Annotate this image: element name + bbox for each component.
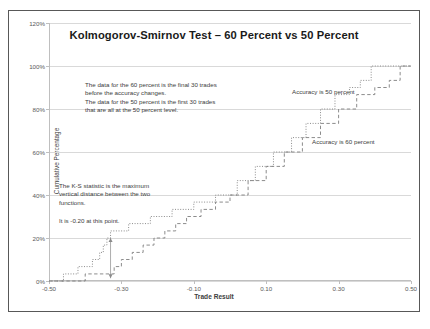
ks-note-line-1: The K-S statistic is the maximum: [59, 182, 150, 190]
x-tick-label: -0.30: [114, 285, 128, 292]
annotation-accuracy-50-label: Accuracy is 50 percent: [292, 88, 355, 96]
data-note-line-2: before the accuracy changes.: [85, 89, 217, 97]
y-tick-label: 0%: [36, 278, 45, 285]
x-tick-label: 0.30: [333, 285, 345, 292]
x-tick-mark: [121, 281, 122, 284]
x-tick-label: 0.50: [405, 285, 417, 292]
y-tick-label: 80%: [33, 106, 45, 113]
data-note-line-4: that are all at the 50 percent level.: [85, 106, 217, 114]
data-curves: [49, 23, 411, 281]
annotation-ks-definition: The K-S statistic is the maximum vertica…: [59, 182, 150, 207]
chart-window-frame: Kolmogorov-Smirnov Test – 60 Percent vs …: [8, 10, 420, 312]
y-tick-label: 20%: [33, 235, 45, 242]
x-axis-title: Trade Result: [9, 293, 419, 300]
plot-area: 0%20%40%60%80%100%120% -0.50-0.30-0.100.…: [49, 23, 411, 281]
x-tick-mark: [339, 281, 340, 284]
ks-note-line-2: vertical distance between the two: [59, 190, 150, 198]
ks-note-line-3: functions.: [59, 199, 150, 207]
x-tick-mark: [411, 281, 412, 284]
data-note-line-3: The data for the 50 percent is the first…: [85, 98, 217, 106]
annotation-accuracy-60-label: Accuracy is 60 percent: [312, 138, 375, 146]
x-tick-label: -0.50: [42, 285, 56, 292]
y-tick-label: 40%: [33, 192, 45, 199]
annotation-ks-value: It is -0.20 at this point.: [59, 217, 120, 225]
x-tick-mark: [266, 281, 267, 284]
data-note-line-1: The data for the 60 percent is the final…: [85, 81, 217, 89]
gridline-y: [49, 281, 411, 282]
x-tick-mark: [194, 281, 195, 284]
y-tick-label: 100%: [29, 63, 45, 70]
y-tick-label: 120%: [29, 20, 45, 27]
y-tick-label: 60%: [33, 149, 45, 156]
annotation-data-description: The data for the 60 percent is the final…: [85, 81, 217, 115]
x-tick-label: 0.10: [260, 285, 272, 292]
ks-distance-marker: [109, 238, 113, 278]
x-tick-label: -0.10: [187, 285, 201, 292]
